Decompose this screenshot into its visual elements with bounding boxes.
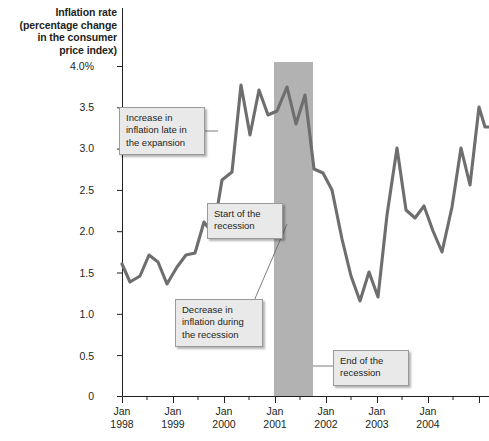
annotation-start-of-recession: Start of the recession bbox=[207, 203, 283, 239]
annotation-increase-in-inflation: Increase in inflation late in the expans… bbox=[119, 107, 205, 155]
chart-figure: Inflation rate (percentage change in the… bbox=[0, 0, 489, 441]
annotation-end-of-recession: End of the recession bbox=[333, 350, 409, 386]
x-axis-ticks bbox=[123, 397, 480, 403]
annotation-decrease-in-inflation: Decrease in inflation during the recessi… bbox=[175, 299, 263, 347]
